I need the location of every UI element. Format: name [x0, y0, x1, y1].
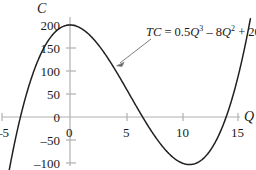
- equation-annotation: TC = 0.5Q3 – 8Q2 + 200: [146, 26, 256, 39]
- x-tick-label-15: 15: [231, 126, 244, 139]
- equation-op2: +: [235, 25, 248, 39]
- equation-term3: 200: [248, 25, 256, 39]
- y-tick-label-150: 150: [24, 42, 60, 55]
- y-tick-label-0: 0: [24, 111, 60, 124]
- y-axis-label: C: [37, 2, 46, 16]
- y-tick-label-200: 200: [24, 19, 60, 32]
- annotation-arrow: [117, 39, 152, 67]
- x-tick-label--5: –5: [0, 126, 9, 139]
- equation-term1-var: Q: [190, 25, 199, 39]
- y-tick-label-100: 100: [24, 65, 60, 78]
- x-tick-label-5: 5: [123, 126, 130, 139]
- equation-term1-coef: 0.5: [175, 25, 191, 39]
- equation-equals: =: [161, 25, 174, 39]
- y-tick-label--100: –100: [16, 157, 60, 170]
- y-axis-ticks: [66, 25, 76, 163]
- x-tick-label-0: 0: [66, 126, 73, 139]
- x-tick-label-10: 10: [176, 126, 189, 139]
- x-axis-label: Q: [244, 110, 254, 124]
- chart-figure: TC = 0.5Q3 – 8Q2 + 200 C Q 200 150 100 5…: [0, 0, 256, 170]
- y-tick-label--50: –50: [20, 134, 60, 147]
- equation-term2-var: Q: [222, 25, 231, 39]
- equation-lhs: TC: [146, 25, 161, 39]
- equation-op1: –: [203, 25, 216, 39]
- y-tick-label-50: 50: [24, 88, 60, 101]
